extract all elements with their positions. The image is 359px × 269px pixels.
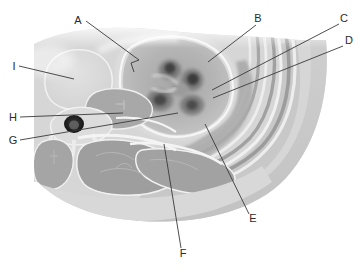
label-C: C [340, 12, 348, 24]
label-B: B [254, 12, 261, 24]
label-E: E [249, 212, 256, 224]
label-A: A [74, 14, 82, 26]
label-I: I [12, 60, 15, 72]
body-cross-section [0, 22, 359, 227]
scan-fade-top [0, 22, 359, 48]
label-G: G [9, 134, 18, 146]
anatomy-illustration: A B C D E [0, 0, 359, 269]
label-H: H [9, 111, 17, 123]
left-flank-blur [22, 44, 74, 76]
anatomy-figure: A B C D E [0, 0, 359, 269]
label-F: F [180, 247, 187, 259]
label-D: D [345, 34, 353, 46]
spinal-cord [69, 121, 79, 130]
